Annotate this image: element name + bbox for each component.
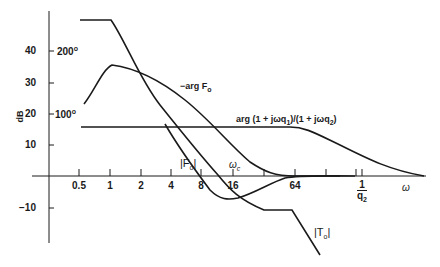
annotation-arg-q: arg (1 + jωq1)/(1 + jωq2) [236, 115, 337, 126]
x-tick-16: 16 [227, 181, 238, 191]
x-tick-2: 2 [138, 181, 144, 191]
bode-chart: dB 40 30 20 10 −10 200o 100o 0.5 1 2 4 8… [0, 0, 440, 267]
y-tick-20: 20 [12, 109, 36, 119]
y-tick-40: 40 [12, 46, 36, 56]
y-tick-minus10: −10 [12, 203, 36, 213]
x-tick-0.5: 0.5 [72, 181, 86, 191]
y-deg-tick-200: 200o [57, 45, 78, 57]
y-deg-tick-100: 100o [55, 108, 76, 120]
x-tick-1-over-q2: 1 q2 [357, 180, 367, 203]
annotation-arg-Fo: −arg Fo [180, 82, 212, 93]
x-axis-label: ω [402, 183, 410, 193]
annotation-abs-To: |To| [314, 227, 330, 240]
y-tick-30: 30 [12, 78, 36, 88]
plot-area [0, 0, 440, 267]
curve-abs-To [80, 20, 320, 255]
y-tick-10: 10 [12, 140, 36, 150]
x-tick-64: 64 [289, 181, 300, 191]
curve-arg-q [81, 127, 424, 176]
annotation-omega-c: ωc [229, 160, 240, 172]
x-tick-8: 8 [198, 181, 204, 191]
x-tick-4: 4 [168, 181, 174, 191]
x-tick-1: 1 [107, 181, 113, 191]
annotation-abs-Fo: |Fo| [180, 158, 196, 171]
